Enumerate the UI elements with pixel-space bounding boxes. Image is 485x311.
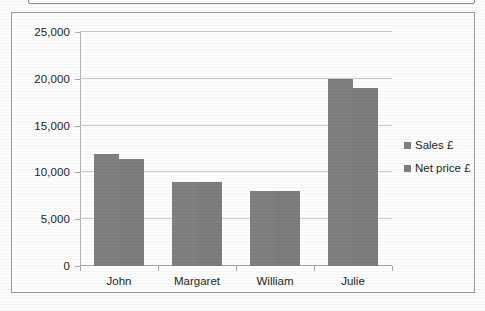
clipped-panel-edge xyxy=(28,0,475,4)
y-axis-tick-mark xyxy=(75,79,80,80)
x-axis-tick-mark xyxy=(158,266,159,271)
bar-group xyxy=(314,32,392,266)
y-axis-tick-label: 15,000 xyxy=(34,120,70,132)
legend-swatch-icon xyxy=(404,165,411,172)
bar xyxy=(353,88,378,266)
bar xyxy=(197,182,222,266)
bar xyxy=(94,154,119,266)
y-axis-tick-mark xyxy=(75,126,80,127)
bar-group xyxy=(158,32,236,266)
y-axis-labels: 05,00010,00015,00020,00025,000 xyxy=(12,32,70,266)
x-axis-category-label: John xyxy=(80,275,158,287)
bar xyxy=(250,191,275,266)
legend-item[interactable]: Net price £ xyxy=(404,162,471,174)
y-axis-tick-label: 5,000 xyxy=(41,213,70,225)
x-axis-tick-mark xyxy=(392,266,393,271)
legend-label: Net price £ xyxy=(415,162,471,174)
bar-groups xyxy=(80,32,392,266)
y-axis-tick-label: 10,000 xyxy=(34,166,70,178)
y-axis-tick-mark xyxy=(75,32,80,33)
y-axis-tick-label: 20,000 xyxy=(34,73,70,85)
y-axis-tick-mark xyxy=(75,266,80,267)
x-axis-tick-mark xyxy=(236,266,237,271)
legend-swatch-icon xyxy=(404,142,411,149)
x-axis-category-label: Margaret xyxy=(158,275,236,287)
bar xyxy=(172,182,197,266)
bar xyxy=(119,159,144,266)
x-axis-category-label: William xyxy=(236,275,314,287)
x-axis-tick-mark xyxy=(80,266,81,271)
plot-area xyxy=(80,32,392,266)
y-axis-tick-mark xyxy=(75,219,80,220)
x-axis-category-label: Julie xyxy=(314,275,392,287)
y-axis-tick-label: 0 xyxy=(64,260,71,272)
chart-container: 05,00010,00015,00020,00025,000 JohnMarga… xyxy=(11,12,475,293)
chart-legend: Sales £Net price £ xyxy=(404,139,471,185)
bar-group xyxy=(80,32,158,266)
x-axis-labels: JohnMargaretWilliamJulie xyxy=(80,275,392,287)
legend-label: Sales £ xyxy=(415,139,453,151)
bar xyxy=(328,79,353,266)
y-axis-tick-mark xyxy=(75,172,80,173)
bar xyxy=(275,191,300,266)
y-axis-tick-label: 25,000 xyxy=(34,26,70,38)
x-axis-tick-mark xyxy=(314,266,315,271)
bar-group xyxy=(236,32,314,266)
legend-item[interactable]: Sales £ xyxy=(404,139,471,151)
